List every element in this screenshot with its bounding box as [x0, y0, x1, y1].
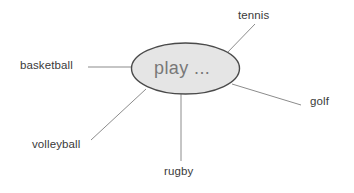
central-node-label: play ...	[154, 58, 210, 78]
branch-line-golf	[232, 84, 301, 105]
mind-map-diagram: play ... tennis golf rugby volleyball ba…	[0, 0, 354, 193]
node-label-golf: golf	[310, 95, 329, 108]
node-label-volleyball: volleyball	[32, 138, 80, 151]
branch-line-volleyball	[91, 89, 146, 140]
node-label-basketball: basketball	[20, 59, 73, 72]
node-label-rugby: rugby	[164, 165, 193, 178]
branch-line-tennis	[226, 24, 255, 54]
node-label-tennis: tennis	[238, 9, 269, 22]
